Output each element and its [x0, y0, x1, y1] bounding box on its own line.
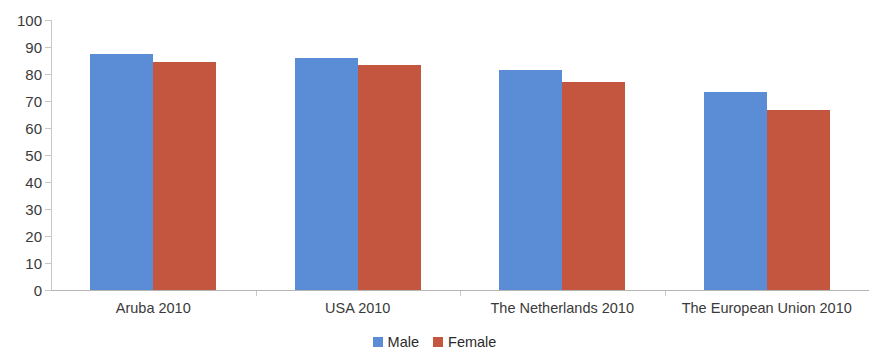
x-axis-category-label: USA 2010 [325, 300, 390, 316]
bar-female-0 [153, 62, 216, 290]
bar-chart: 1009080706050403020100 Aruba 2010USA 201… [0, 0, 869, 355]
legend-swatch-male-icon [373, 337, 383, 347]
y-axis-tick-label: 70 [2, 94, 42, 109]
y-axis-tick-label: 60 [2, 121, 42, 136]
bars-layer [51, 20, 869, 290]
y-axis-tick-label: 100 [2, 13, 42, 28]
y-axis-tick-label: 40 [2, 175, 42, 190]
y-axis-tick-label: 90 [2, 40, 42, 55]
y-axis-tick-label: 80 [2, 67, 42, 82]
y-axis-tick-label: 50 [2, 148, 42, 163]
bar-female-2 [562, 82, 625, 290]
legend-label-male: Male [388, 335, 419, 350]
x-axis-tick [460, 291, 461, 296]
legend-label-female: Female [448, 335, 496, 350]
bar-female-3 [767, 110, 830, 290]
x-axis-tick [665, 291, 666, 296]
x-axis-category-label: Aruba 2010 [116, 300, 191, 316]
bar-male-3 [704, 92, 767, 290]
y-axis-tick-label: 0 [2, 283, 42, 298]
y-axis-tick-label: 20 [2, 229, 42, 244]
bar-male-2 [499, 70, 562, 290]
x-axis-category-label: The European Union 2010 [682, 300, 852, 316]
plot-area [51, 20, 869, 290]
y-axis-tick-label: 30 [2, 202, 42, 217]
legend-item-female[interactable]: Female [433, 335, 496, 350]
x-axis-category-label: The Netherlands 2010 [491, 300, 635, 316]
x-axis-tick [256, 291, 257, 296]
bar-female-1 [358, 65, 421, 290]
y-axis-tick-label: 10 [2, 256, 42, 271]
y-axis-labels: 1009080706050403020100 [0, 0, 42, 355]
chart-legend: Male Female [0, 335, 869, 350]
bar-male-0 [90, 54, 153, 290]
bar-male-1 [295, 58, 358, 290]
legend-item-male[interactable]: Male [373, 335, 419, 350]
legend-swatch-female-icon [433, 337, 443, 347]
